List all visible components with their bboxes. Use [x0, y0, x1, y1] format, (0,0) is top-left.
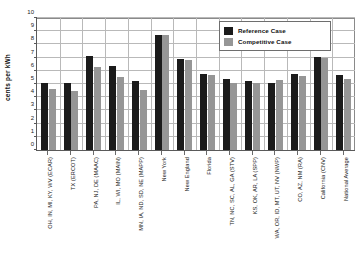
x-axis-tick-label: TN, NC, SC, AL, GA (STV)	[229, 157, 235, 226]
x-axis-tick: California (CNV)	[309, 151, 332, 269]
x-axis-tick: OH, IN, MI, KY, WV (ECAR)	[36, 151, 59, 269]
bar-group	[82, 18, 105, 150]
x-axis-tick: National Average	[331, 151, 354, 269]
legend-swatch-competitive-case	[224, 38, 233, 46]
x-axis-tick-mark	[93, 151, 94, 155]
x-axis-tick-label: California (CNV)	[320, 157, 326, 199]
y-axis-tick-label: 10	[27, 9, 34, 15]
x-axis-tick: TN, NC, SC, AL, GA (STV)	[218, 151, 241, 269]
y-axis-tick-label: 1	[31, 128, 34, 134]
x-axis-tick-label: KS, OK, AR, LA (SPP)	[252, 157, 258, 214]
y-axis-tick-label: 8	[31, 35, 34, 41]
chart-legend: Reference Case Competitive Case	[219, 21, 331, 51]
x-axis-tick-mark	[297, 151, 298, 155]
bar-competitive-case	[49, 89, 56, 150]
bar-competitive-case	[140, 90, 147, 150]
legend-label-reference-case: Reference Case	[238, 27, 286, 34]
x-axis-tick-mark	[184, 151, 185, 155]
y-axis-title: cents per kWh	[0, 0, 16, 155]
bar-competitive-case	[162, 35, 169, 150]
bar-reference-case	[245, 81, 252, 150]
bar-competitive-case	[208, 75, 215, 150]
bar-reference-case	[314, 57, 321, 150]
y-axis-tick-label: 0	[31, 141, 34, 147]
y-axis-tick-label: 4	[31, 88, 34, 94]
x-axis-tick: TX (ERCOT)	[59, 151, 82, 269]
x-axis-tick-label: TX (ERCOT)	[70, 157, 76, 190]
bar-group	[332, 18, 355, 150]
bar-group	[173, 18, 196, 150]
bar-competitive-case	[253, 83, 260, 150]
legend-item-reference-case: Reference Case	[224, 25, 326, 36]
bar-reference-case	[41, 83, 48, 150]
x-axis-tick-label: IL, WI, MO (MAIN)	[115, 157, 121, 205]
bar-group	[196, 18, 219, 150]
bar-competitive-case	[276, 80, 283, 150]
x-axis-tick-mark	[138, 151, 139, 155]
x-axis-tick-mark	[161, 151, 162, 155]
x-axis-labels: OH, IN, MI, KY, WV (ECAR)TX (ERCOT)PA, N…	[36, 151, 354, 269]
bar-reference-case	[64, 83, 71, 150]
legend-label-competitive-case: Competitive Case	[238, 38, 292, 45]
y-axis-tick-label: 7	[31, 49, 34, 55]
x-axis-tick: New England	[172, 151, 195, 269]
x-axis-tick-label: Florida	[206, 157, 212, 175]
x-axis-tick-label: New England	[184, 157, 190, 191]
bar-competitive-case	[117, 77, 124, 150]
y-axis-tick-label: 6	[31, 62, 34, 68]
bar-reference-case	[86, 56, 93, 150]
y-axis-tick-label: 5	[31, 75, 34, 81]
x-axis-tick-label: National Average	[343, 157, 349, 201]
x-axis-tick-mark	[115, 151, 116, 155]
y-axis-tick-label: 2	[31, 115, 34, 121]
x-axis-tick: IL, WI, MO (MAIN)	[104, 151, 127, 269]
legend-item-competitive-case: Competitive Case	[224, 36, 326, 47]
bar-group	[128, 18, 151, 150]
legend-swatch-reference-case	[224, 27, 233, 35]
x-axis-tick-mark	[274, 151, 275, 155]
bar-competitive-case	[321, 58, 328, 150]
bar-competitive-case	[299, 76, 306, 150]
x-axis-tick-mark	[206, 151, 207, 155]
x-axis-tick-mark	[70, 151, 71, 155]
bar-reference-case	[223, 79, 230, 150]
y-axis-title-text: cents per kWh	[5, 54, 12, 101]
x-axis-tick: KS, OK, AR, LA (SPP)	[240, 151, 263, 269]
x-axis-tick-mark	[320, 151, 321, 155]
bar-group	[151, 18, 174, 150]
bar-group	[105, 18, 128, 150]
x-axis-tick-label: New York	[161, 157, 167, 181]
bar-reference-case	[268, 83, 275, 150]
bar-reference-case	[200, 74, 207, 150]
x-axis-tick-mark	[229, 151, 230, 155]
x-axis-tick-label: WA, OR, ID, MT, UT, NV (NWP)	[274, 157, 280, 239]
bar-competitive-case	[185, 60, 192, 150]
bar-reference-case	[291, 74, 298, 150]
bar-group	[60, 18, 83, 150]
bar-reference-case	[132, 81, 139, 150]
x-axis-tick: New York	[150, 151, 173, 269]
x-axis-tick-mark	[47, 151, 48, 155]
x-axis-tick: CO, AZ, NM (RA)	[286, 151, 309, 269]
bar-competitive-case	[71, 91, 78, 150]
x-axis-tick: Florida	[195, 151, 218, 269]
y-axis-tick-label: 3	[31, 101, 34, 107]
x-axis-tick: PA, NJ, DE (MAAC)	[81, 151, 104, 269]
bar-reference-case	[336, 75, 343, 150]
bar-chart-figure: cents per kWh 012345678910 OH, IN, MI, K…	[0, 0, 358, 272]
x-axis-tick-mark	[343, 151, 344, 155]
bar-competitive-case	[94, 67, 101, 150]
x-axis-tick: MN, IA, ND, SD, NE (MAPP)	[127, 151, 150, 269]
bar-reference-case	[155, 35, 162, 151]
y-axis-tick-label: 9	[31, 22, 34, 28]
bar-competitive-case	[230, 83, 237, 150]
x-axis-tick-label: PA, NJ, DE (MAAC)	[93, 157, 99, 208]
x-axis-tick-mark	[252, 151, 253, 155]
bar-group	[37, 18, 60, 150]
bar-reference-case	[109, 66, 116, 150]
x-axis-tick: WA, OR, ID, MT, UT, NV (NWP)	[263, 151, 286, 269]
x-axis-tick-label: OH, IN, MI, KY, WV (ECAR)	[47, 157, 53, 229]
bar-reference-case	[177, 59, 184, 150]
x-axis-tick-label: CO, AZ, NM (RA)	[297, 157, 303, 202]
bar-competitive-case	[344, 79, 351, 150]
